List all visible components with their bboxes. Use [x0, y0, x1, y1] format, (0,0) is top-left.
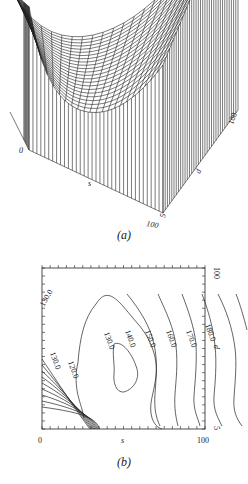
x-axis-min-label: 0 [38, 436, 42, 445]
d-axis-min-label: 5 [158, 213, 168, 219]
plot-frame [42, 268, 205, 429]
caption-a: (a) [0, 228, 248, 243]
contour-label: 130.0 [48, 351, 63, 371]
y-axis-max-label: 100 [212, 267, 221, 279]
contour-label: 170.0 [184, 329, 199, 349]
d-axis-label: d [193, 167, 203, 175]
contour-label: 120.0 [66, 360, 81, 380]
contour-label: 140.0 [123, 329, 138, 349]
y-axis-label: d [212, 345, 221, 350]
s-axis-min-label: 0 [19, 146, 23, 155]
contour-plot: 130.0120.0130.0130.0140.0150.0160.0170.0… [0, 245, 248, 484]
x-axis-max-label: 100 [197, 436, 209, 445]
caption-b: (b) [0, 455, 248, 470]
contour-label: 130.0 [38, 288, 55, 308]
contour-label: 160.0 [164, 329, 179, 349]
x-axis-label: s [121, 436, 124, 445]
s-axis-label: s [88, 179, 91, 188]
surface-plot: 0 s 100 5 d 100 [0, 0, 248, 245]
y-axis-min-label: 5 [212, 426, 221, 430]
contour-label: 130.0 [102, 331, 117, 351]
figure-a: 0 s 100 5 d 100 (a) [0, 0, 248, 245]
contour-label: 150.0 [143, 329, 158, 349]
d-axis-max-label: 100 [226, 111, 239, 125]
figure-b: 130.0120.0130.0130.0140.0150.0160.0170.0… [0, 245, 248, 484]
